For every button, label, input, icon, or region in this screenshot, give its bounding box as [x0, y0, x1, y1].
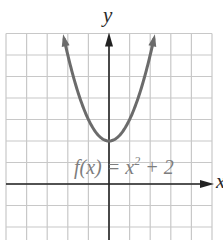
function-label-lhs: f(x) = x	[74, 156, 134, 178]
x-axis-label: x	[216, 171, 223, 192]
parabola-graph	[0, 0, 223, 240]
function-label-rhs: + 2	[140, 156, 174, 178]
function-label: f(x) = x2 + 2	[74, 156, 174, 178]
y-axis-label: y	[103, 5, 112, 26]
axes	[6, 33, 214, 240]
